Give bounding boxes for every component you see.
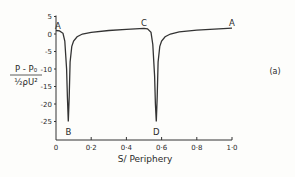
x-tick-label: 0 — [54, 144, 58, 152]
y-axis-label-numerator: P - P₀ — [15, 64, 38, 74]
point-label-a: A — [55, 21, 61, 31]
point-label-a: A — [229, 18, 235, 28]
x-axis-ticks: 00·20·40·60·81·0 — [54, 137, 238, 152]
y-axis-label-denominator: ½ρU² — [14, 77, 37, 87]
point-label-b: B — [65, 127, 71, 137]
y-axis-ticks: 50-5-10-15-20-25 — [41, 13, 56, 126]
panel-label: (a) — [269, 67, 280, 76]
x-tick-label: 0·8 — [191, 144, 202, 152]
y-tick-label: -10 — [41, 66, 52, 74]
point-label-d: D — [153, 127, 160, 137]
chart-canvas: 50-5-10-15-20-25 00·20·40·60·81·0 ABCDA … — [0, 0, 295, 177]
y-tick-label: -5 — [45, 48, 52, 56]
y-tick-label: 0 — [48, 31, 52, 39]
x-axis-label: S/ Periphery — [118, 154, 173, 164]
pressure-curve — [56, 28, 232, 121]
x-tick-label: 0·6 — [156, 144, 168, 152]
y-tick-label: -20 — [41, 101, 52, 109]
point-label-c: C — [141, 18, 147, 28]
y-tick-label: -25 — [41, 118, 52, 126]
x-tick-label: 0·2 — [86, 144, 97, 152]
x-tick-label: 1·0 — [226, 144, 237, 152]
point-annotations: ABCDA — [55, 18, 235, 137]
x-tick-label: 0·4 — [121, 144, 133, 152]
y-tick-label: -15 — [41, 83, 52, 91]
y-tick-label: 5 — [48, 13, 52, 21]
